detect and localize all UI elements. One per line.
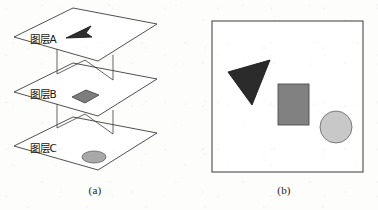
caption-panel-a: (a): [0, 184, 190, 196]
layer-label-b: 图层B: [30, 86, 57, 101]
layer-c-circle-feature[interactable]: [82, 151, 106, 163]
panel-exploded-layers: 图层A 图层B 图层C (a): [0, 0, 190, 210]
layer-label-c: 图层C: [30, 140, 57, 155]
result-circle-shape[interactable]: [320, 111, 352, 143]
exploded-layers-svg: [0, 0, 190, 210]
layer-label-a: 图层A: [30, 31, 57, 46]
composited-result-svg: [190, 0, 378, 210]
figure-root: 图层A 图层B 图层C (a) (b): [0, 0, 378, 210]
result-square-shape[interactable]: [278, 84, 309, 125]
caption-panel-b: (b): [190, 184, 378, 196]
panel-composited-result: (b): [190, 0, 378, 210]
